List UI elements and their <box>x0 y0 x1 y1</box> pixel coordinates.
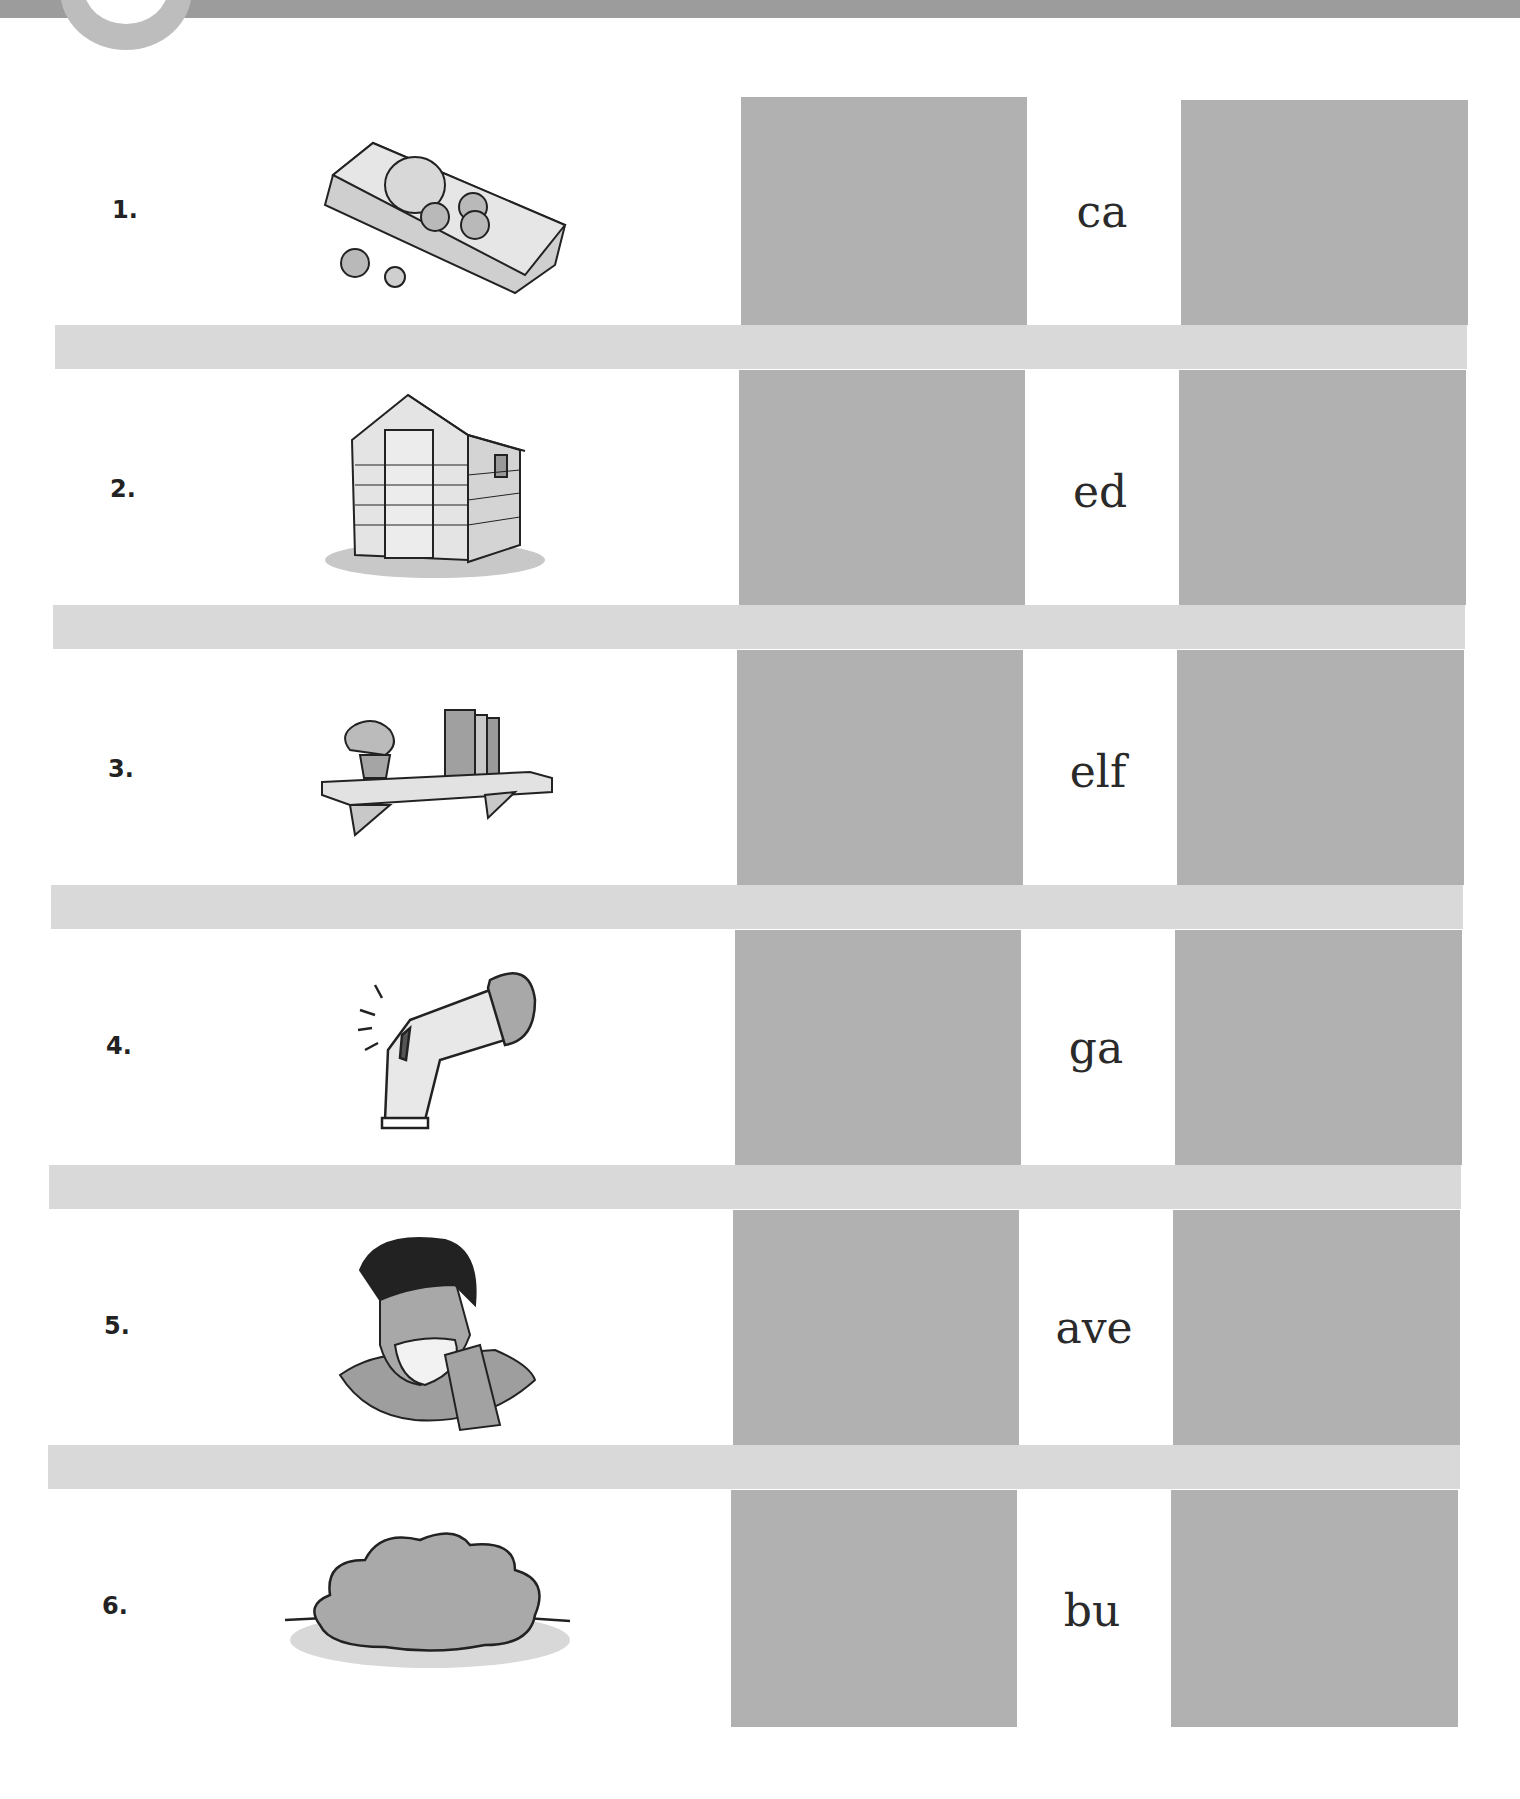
word-ending: ave <box>1018 1302 1170 1353</box>
word-ending: bu <box>1016 1585 1168 1636</box>
row-number: 2. <box>110 475 136 503</box>
answer-box-right-3[interactable] <box>1177 650 1464 885</box>
man-shaving-icon <box>335 1225 540 1435</box>
bush-icon <box>285 1525 575 1670</box>
row-number: 5. <box>104 1312 130 1340</box>
answer-box-right-4[interactable] <box>1175 930 1462 1165</box>
answer-box-left-1[interactable] <box>741 97 1027 325</box>
row-number: 6. <box>102 1592 128 1620</box>
money-icon <box>315 135 575 295</box>
graze-elbow-icon <box>340 940 540 1140</box>
answer-box-left-5[interactable] <box>733 1210 1019 1445</box>
answer-box-left-2[interactable] <box>739 370 1025 605</box>
shed-icon <box>320 385 555 580</box>
word-ending: ga <box>1020 1022 1172 1073</box>
row-number: 4. <box>106 1032 132 1060</box>
answer-box-right-2[interactable] <box>1179 370 1466 605</box>
top-banner <box>0 0 1520 18</box>
separator-band <box>48 1445 1460 1489</box>
shelf-icon <box>320 700 560 840</box>
word-ending: ed <box>1024 466 1176 517</box>
answer-box-right-1[interactable] <box>1181 100 1468 325</box>
row-number: 1. <box>112 196 138 224</box>
separator-band <box>51 885 1463 929</box>
answer-box-left-4[interactable] <box>735 930 1021 1165</box>
unit-badge: 1 <box>60 0 192 50</box>
separator-band <box>53 605 1465 649</box>
row-number: 3. <box>108 755 134 783</box>
answer-box-left-3[interactable] <box>737 650 1023 885</box>
separator-band <box>55 325 1467 369</box>
word-ending: elf <box>1022 746 1174 797</box>
answer-box-right-5[interactable] <box>1173 1210 1460 1445</box>
word-ending: ca <box>1026 186 1178 237</box>
answer-box-left-6[interactable] <box>731 1490 1017 1727</box>
separator-band <box>49 1165 1461 1209</box>
answer-box-right-6[interactable] <box>1171 1490 1458 1727</box>
unit-number: 1 <box>84 0 168 12</box>
